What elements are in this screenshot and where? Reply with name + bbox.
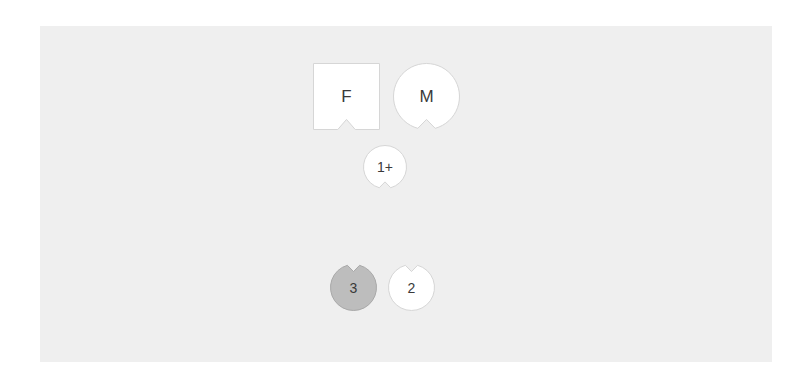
circle-notch-top-icon bbox=[388, 264, 435, 311]
circle-notch-bottom-icon bbox=[363, 145, 407, 189]
circle-notch-bottom-icon bbox=[393, 63, 460, 130]
token-M-circle[interactable]: M bbox=[393, 63, 460, 130]
token-1plus-circle[interactable]: 1+ bbox=[363, 145, 407, 189]
square-notch-bottom-icon bbox=[313, 63, 380, 130]
token-F-square[interactable]: F bbox=[313, 63, 380, 130]
token-2-circle[interactable]: 2 bbox=[388, 264, 435, 311]
circle-notch-top-icon bbox=[330, 264, 377, 311]
token-3-circle-selected[interactable]: 3 bbox=[330, 264, 377, 311]
